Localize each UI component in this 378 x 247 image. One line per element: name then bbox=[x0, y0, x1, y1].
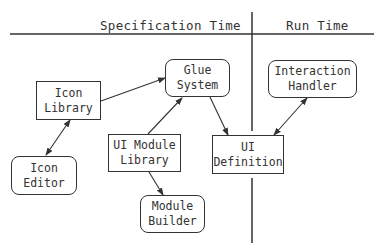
node-label-line2: Editor bbox=[23, 176, 65, 191]
node-ui-module-library: UI Module Library bbox=[108, 134, 181, 172]
node-label-line2: System bbox=[177, 78, 219, 93]
node-label-line1: Glue bbox=[184, 63, 212, 78]
node-label-line2: Handler bbox=[288, 79, 336, 94]
node-label-line1: Module bbox=[152, 199, 194, 214]
node-icon-editor: Icon Editor bbox=[11, 156, 77, 195]
node-label-line2: Builder bbox=[148, 214, 196, 229]
node-interaction-handler: Interaction Handler bbox=[268, 60, 357, 98]
edge-ui-definition-interaction-handler bbox=[274, 98, 307, 135]
node-module-builder: Module Builder bbox=[140, 195, 205, 233]
edge-icon-library-icon-editor bbox=[46, 120, 70, 155]
edge-icon-library-glue-system bbox=[101, 78, 165, 101]
header-specification-time: Specification Time bbox=[100, 18, 241, 33]
edge-ui-module-library-module-builder bbox=[149, 172, 163, 195]
node-label-line1: UI Module bbox=[113, 138, 175, 153]
header-run-time: Run Time bbox=[286, 18, 349, 33]
node-label-line1: Icon bbox=[55, 86, 83, 101]
node-label-line1: UI bbox=[241, 140, 255, 155]
node-glue-system: Glue System bbox=[165, 59, 230, 97]
node-icon-library: Icon Library bbox=[36, 81, 101, 120]
node-label-line1: Icon bbox=[30, 161, 58, 176]
edge-ui-module-library-glue-system bbox=[148, 98, 182, 134]
node-label-line1: Interaction bbox=[274, 64, 350, 79]
edge-glue-system-ui-definition bbox=[210, 97, 228, 135]
node-label-line2: Definition bbox=[213, 155, 282, 170]
node-label-line2: Library bbox=[120, 153, 168, 168]
node-ui-definition: UI Definition bbox=[212, 135, 284, 174]
node-label-line2: Library bbox=[44, 101, 92, 116]
